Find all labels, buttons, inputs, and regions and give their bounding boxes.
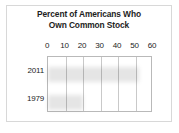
x-tick-label-50: 50 [130, 41, 139, 50]
x-tick-label-60: 60 [148, 41, 157, 50]
y-category-label-1979: 1979 [4, 94, 44, 103]
gridline-50 [136, 57, 137, 111]
x-tick-label-30: 30 [95, 41, 104, 50]
bar-1979 [48, 92, 80, 107]
x-tick-label-10: 10 [60, 41, 69, 50]
x-tick-label-20: 20 [78, 41, 87, 50]
y-axis-category-labels: 20111979 [2, 56, 44, 112]
x-tick-label-40: 40 [113, 41, 122, 50]
bar-2011 [48, 64, 136, 79]
chart-figure: Percent of Americans Who Own Common Stoc… [0, 0, 179, 133]
y-category-label-2011: 2011 [4, 66, 44, 75]
chart-title: Percent of Americans Who Own Common Stoc… [10, 9, 168, 30]
x-axis-tick-labels: 0102030405060 [47, 41, 152, 52]
plot-area [47, 56, 152, 112]
chart-title-line-1: Percent of Americans Who [10, 9, 168, 20]
chart-title-line-2: Own Common Stock [10, 20, 168, 31]
x-tick-label-0: 0 [45, 41, 49, 50]
